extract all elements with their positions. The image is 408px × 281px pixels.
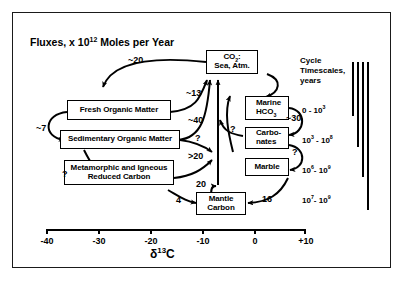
box-mantle-carbon-label-line1: Mantle: [209, 194, 234, 203]
timescales-heading-line3: years: [300, 76, 321, 85]
timescale-row-2-base1: 10: [319, 166, 328, 175]
arrow-metamorphic-to-column: [174, 160, 212, 178]
axis-tick-label-3: -10: [196, 236, 209, 246]
timescale-row-2-exp1: 9: [328, 164, 331, 170]
box-co2-label-colon: :: [238, 52, 241, 61]
axis-title-exponent: 13: [157, 246, 166, 255]
timescale-row-2-base0: 10: [302, 166, 311, 175]
axis-tick-label-1: -30: [92, 236, 105, 246]
box-co2-sea-atm[interactable]: CO2: Sea, Atm.: [206, 50, 258, 74]
box-mantle-carbon-label-line2: Carbon: [207, 203, 234, 212]
box-co2-label-line2: Sea, Atm.: [214, 61, 249, 70]
flux-label-fresh-to-co2: ~20: [128, 56, 143, 66]
timescale-row-3-base0: 10: [302, 196, 311, 205]
arrow-metamorphic-to-mantle: [168, 190, 196, 203]
flux-label-carbonates-to-co2-unknown: ?: [230, 125, 236, 135]
timescale-row-0: 0 - 103: [302, 106, 325, 115]
flux-label-mantle-in-4: 4: [176, 196, 181, 206]
flux-label-metamorphic-unknown: ?: [62, 170, 68, 180]
axis-tick-label-0: -40: [40, 236, 53, 246]
box-marine-hco3-label-line2: HCO: [256, 107, 273, 116]
figure-root: Fluxes, x 1012 Moles per Year: [0, 0, 408, 281]
box-sedimentary-organic-matter-label: Sedimentary Organic Matter: [68, 135, 172, 144]
axis-tick-2: [150, 229, 152, 234]
timescale-row-3: 107- 109: [302, 196, 331, 205]
flux-label-carbonates-to-marble-unknown: ?: [292, 148, 298, 158]
timescale-row-0-exp: 3: [322, 104, 325, 110]
timescale-row-0-base: 0 - 10: [302, 106, 322, 115]
axis-line: [46, 229, 306, 231]
box-co2-label-main: CO: [223, 52, 235, 61]
box-sedimentary-organic-matter[interactable]: Sedimentary Organic Matter: [60, 130, 180, 149]
flux-label-sedimentary-to-co2: ~40: [188, 116, 203, 126]
axis-title-element: C: [166, 247, 175, 261]
axis-tick-4: [254, 229, 256, 234]
axis-tick-label-4: 0: [252, 236, 257, 246]
axis-tick-3: [202, 229, 204, 234]
timescale-row-1-base0: 10: [302, 136, 311, 145]
axis-title: δ13C: [150, 247, 175, 261]
box-fresh-organic-matter-label: Fresh Organic Matter: [80, 106, 158, 115]
box-marble-label: Marble: [254, 163, 279, 172]
flux-label-mantle-in-20: 20: [196, 180, 206, 190]
axis-tick-1: [98, 229, 100, 234]
flux-label-marble-to-mantle-16: 16: [262, 195, 272, 205]
timescale-bar-3: [367, 62, 369, 210]
timescale-row-3-base1: 10: [319, 196, 328, 205]
axis-tick-label-2: -20: [144, 236, 157, 246]
timescale-row-1: 103 - 108: [302, 136, 333, 145]
flux-label-sedimentary-unknown: ?: [195, 134, 201, 144]
box-metamorphic-label-line2: Reduced Carbon: [88, 172, 151, 181]
box-marble[interactable]: Marble: [245, 158, 289, 176]
axis-tick-0: [46, 229, 48, 234]
timescales-heading-line1: Cycle: [300, 56, 321, 65]
timescale-row-2: 106- 109: [302, 166, 331, 175]
box-carbonates-label-line1: Carbo-: [256, 128, 281, 137]
axis-tick-5: [304, 229, 306, 234]
timescale-bar-2: [362, 62, 364, 177]
box-mantle-carbon[interactable]: Mantle Carbon: [196, 192, 246, 215]
timescale-row-1-sep: -: [314, 136, 321, 145]
timescale-row-3-exp1: 9: [328, 194, 331, 200]
box-marine-hco3[interactable]: Marine HCO3: [245, 96, 289, 120]
timescale-row-1-base1: 10: [321, 136, 330, 145]
box-fresh-organic-matter[interactable]: Fresh Organic Matter: [67, 100, 171, 120]
box-metamorphic-igneous-reduced-carbon[interactable]: Metamorphic and Igneous Reduced Carbon: [64, 160, 174, 185]
box-metamorphic-label-line1: Metamorphic and Igneous: [71, 163, 168, 172]
flux-label-fresh-to-sedimentary: ~7: [36, 124, 46, 134]
axis-tick-label-5: +10: [298, 236, 313, 246]
box-carbonates-label-line2: nates: [256, 137, 276, 146]
timescales-heading: Cycle Timescales, years: [300, 56, 345, 86]
box-carbonates[interactable]: Carbo- nates: [245, 127, 289, 149]
arrow-co2-to-fresh-organic: [103, 60, 206, 87]
flux-label-marine-to-carbonates: ~30: [286, 114, 301, 124]
flux-label-metamorphic-to-co2: >20: [188, 152, 203, 162]
timescale-row-1-exp1: 8: [330, 134, 333, 140]
box-marine-hco3-label-sub: 3: [273, 112, 276, 118]
timescale-bar-0: [352, 62, 354, 116]
flux-label-fresh-to-co2-right: ~13: [186, 89, 201, 99]
timescale-bar-1: [357, 62, 359, 147]
timescales-heading-line2: Timescales,: [300, 66, 345, 75]
arrow-co2-to-marine-hco3: [266, 74, 278, 97]
box-marine-hco3-label-line1: Marine: [256, 98, 281, 107]
